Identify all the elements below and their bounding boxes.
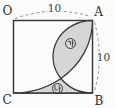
corner-label-o: O [3,4,13,18]
corner-label-b: B [95,94,104,108]
region-ga-shape [53,21,93,79]
corner-label-a: A [93,5,103,19]
dimension-label-top: 10 [48,2,61,14]
dimension-label-right: 10 [97,51,110,63]
corner-label-c: C [2,93,11,107]
geometry-diagram: 10 10 O A C B [0,0,115,108]
